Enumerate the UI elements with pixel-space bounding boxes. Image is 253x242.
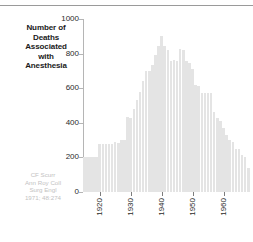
plot-area <box>83 19 250 192</box>
y-axis-tick-label: 200 <box>49 153 79 161</box>
y-axis-tick <box>79 19 83 20</box>
x-axis-tick-label: 1940 <box>158 198 166 216</box>
y-axis-tick <box>79 54 83 55</box>
x-axis-tick <box>224 192 225 196</box>
y-axis-tick <box>79 157 83 158</box>
y-axis-tick <box>79 123 83 124</box>
x-axis-tick <box>131 192 132 196</box>
x-axis-tick-label: 1960 <box>220 198 228 216</box>
x-axis-tick-label: 1920 <box>96 198 104 216</box>
x-axis-labels: 19201930194019501960 <box>83 198 250 242</box>
y-axis-tick <box>79 192 83 193</box>
y-axis-tick-label: 1000 <box>49 15 79 23</box>
x-axis-tick-label: 1950 <box>189 198 197 216</box>
y-axis-tick-label: 800 <box>49 50 79 58</box>
x-axis-tick-label: 1930 <box>127 198 135 216</box>
chart-figure: Number of Deaths Associated with Anesthe… <box>0 0 253 242</box>
top-divider-rule <box>0 5 253 6</box>
y-axis-tick-label: 0 <box>49 188 79 196</box>
y-axis-tick-label: 600 <box>49 84 79 92</box>
y-axis-tick-label: 400 <box>49 119 79 127</box>
bar-series <box>83 19 250 192</box>
y-axis-labels: 02004006008001000 <box>47 0 79 242</box>
x-axis-tick <box>193 192 194 196</box>
x-axis-ticks <box>83 192 250 197</box>
x-axis-tick <box>162 192 163 196</box>
y-axis-tick <box>79 88 83 89</box>
bar <box>247 168 250 192</box>
x-axis-tick <box>100 192 101 196</box>
